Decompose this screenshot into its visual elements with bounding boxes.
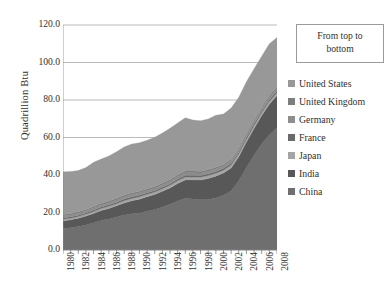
y-tick-label: 0.0: [26, 244, 60, 254]
legend-item[interactable]: Germany: [288, 111, 386, 129]
y-tick-label: 80.0: [26, 94, 60, 104]
x-axis-tick-labels: 1980198219841986198819901992199419961998…: [63, 252, 277, 293]
legend-item[interactable]: Japan: [288, 147, 386, 165]
x-tick-label: 2006: [266, 252, 275, 271]
plot-svg: [63, 24, 277, 255]
x-tick-label: 2004: [250, 252, 259, 271]
legend-item[interactable]: China: [288, 183, 386, 201]
y-tick-label: 20.0: [26, 207, 60, 217]
plot-area: [63, 24, 277, 249]
x-tick-label: 2008: [281, 252, 290, 271]
legend-item[interactable]: France: [288, 129, 386, 147]
x-tick-label: 1994: [174, 252, 183, 271]
x-tick-label: 1986: [113, 252, 122, 271]
legend-swatch-icon: [288, 134, 295, 141]
legend-swatch-icon: [288, 98, 295, 105]
legend-item-label: India: [299, 168, 319, 179]
legend-item-label: Japan: [299, 150, 321, 161]
x-tick-label: 1982: [82, 252, 91, 271]
y-tick-label: 40.0: [26, 169, 60, 179]
legend-item[interactable]: India: [288, 165, 386, 183]
legend-swatch-icon: [288, 170, 295, 177]
y-tick-label: 120.0: [26, 19, 60, 29]
legend-item[interactable]: United Kingdom: [288, 93, 386, 111]
y-tick-label: 60.0: [26, 132, 60, 142]
x-tick-label: 1980: [67, 252, 76, 271]
legend-swatch-icon: [288, 152, 295, 159]
legend-title-line-1: From top to: [301, 30, 379, 43]
y-tick-label: 100.0: [26, 57, 60, 67]
legend-swatch-icon: [288, 188, 295, 195]
chart-legend: From top to bottom United StatesUnited K…: [288, 24, 386, 201]
x-tick-label: 1990: [143, 252, 152, 271]
x-tick-label: 2002: [235, 252, 244, 271]
y-axis-tick-labels: 120.0100.080.060.040.020.00.0: [24, 0, 60, 293]
legend-item[interactable]: United States: [288, 75, 386, 93]
legend-title-box: From top to bottom: [296, 24, 384, 63]
x-tick-label: 2000: [220, 252, 229, 271]
legend-title-line-2: bottom: [301, 43, 379, 56]
legend-item-label: United Kingdom: [299, 96, 365, 107]
legend-items: United StatesUnited KingdomGermanyFrance…: [288, 75, 386, 201]
x-tick-label: 1996: [189, 252, 198, 271]
x-tick-label: 1998: [205, 252, 214, 271]
stacked-area-chart: Quadrillion Btu 120.0100.080.060.040.020…: [0, 0, 388, 293]
x-tick-label: 1992: [159, 252, 168, 271]
x-tick-label: 1984: [98, 252, 107, 271]
legend-swatch-icon: [288, 116, 295, 123]
legend-item-label: China: [299, 186, 322, 197]
legend-item-label: France: [299, 132, 326, 143]
legend-item-label: Germany: [299, 114, 335, 125]
legend-item-label: United States: [299, 78, 352, 89]
x-tick-label: 1988: [128, 252, 137, 271]
legend-swatch-icon: [288, 80, 295, 87]
